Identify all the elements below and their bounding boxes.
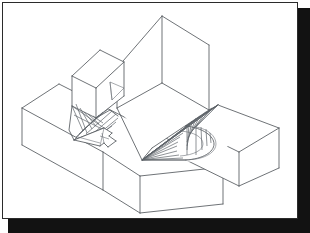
isometric-line-drawing xyxy=(0,0,310,233)
solid-small-upper-left-box xyxy=(72,50,124,118)
figure-root xyxy=(0,0,310,233)
